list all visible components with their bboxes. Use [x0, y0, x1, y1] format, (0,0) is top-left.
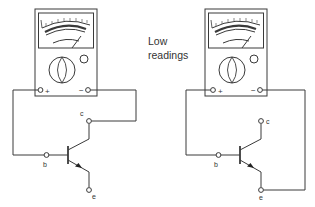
emitter-label: e: [92, 193, 96, 200]
negative-terminal: [86, 88, 91, 93]
adjust-screw-icon: [80, 55, 88, 63]
selector-knob-grip: [228, 57, 237, 83]
selector-knob: [219, 57, 245, 83]
meter-needle: [72, 36, 81, 48]
right-transistor: [216, 119, 263, 193]
negative-sign-label: −: [79, 86, 84, 95]
meter-body: [35, 9, 97, 96]
collector-lead: [68, 124, 89, 150]
meter-scale-lower: [53, 39, 79, 43]
meter-needle: [242, 36, 251, 48]
emitter-label: e: [259, 194, 263, 201]
emitter-terminal: [87, 188, 92, 193]
meter-body: [205, 9, 267, 96]
collector-lead: [240, 124, 261, 150]
left-transistor: [44, 119, 91, 193]
adjust-screw-icon: [250, 55, 258, 63]
wire-negative-to-emitter: [263, 90, 306, 190]
base-terminal: [44, 153, 49, 158]
base-label: b: [214, 161, 218, 168]
collector-label: c: [266, 118, 270, 125]
right-multimeter: [205, 9, 267, 96]
emitter-terminal: [259, 188, 264, 193]
caption-line-1: Low: [148, 34, 188, 48]
wire-positive-to-base: [186, 90, 216, 155]
selector-knob-grip: [58, 57, 67, 83]
positive-sign-label: +: [45, 87, 50, 96]
positive-terminal: [211, 88, 216, 93]
positive-terminal: [38, 88, 43, 93]
meter-needle-zero: [211, 20, 212, 28]
base-terminal: [216, 153, 221, 158]
collector-label: c: [80, 110, 84, 117]
meter-needle-zero: [41, 20, 42, 28]
collector-terminal: [87, 119, 92, 124]
emitter-arrow-icon: [75, 163, 82, 168]
selector-knob: [49, 57, 75, 83]
collector-terminal: [259, 119, 264, 124]
meter-scale-lower: [223, 39, 249, 43]
negative-terminal: [258, 88, 263, 93]
left-multimeter: [35, 9, 97, 96]
emitter-arrow-icon: [247, 163, 254, 168]
caption-line-2: readings: [148, 48, 188, 62]
transistor-test-diagram: + − + − c b e c b e: [0, 0, 315, 207]
base-label: b: [43, 161, 47, 168]
caption: Low readings: [148, 34, 188, 62]
wire-positive-to-base: [13, 90, 44, 155]
positive-sign-label: +: [218, 87, 223, 96]
negative-sign-label: −: [251, 86, 256, 95]
